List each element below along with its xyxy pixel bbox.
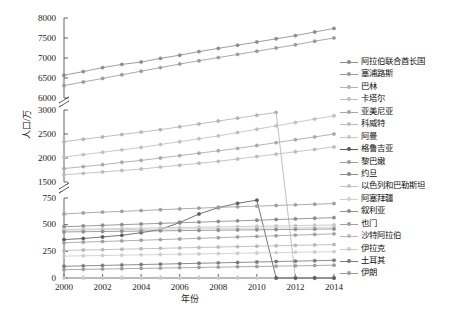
legend-label: 塞浦路斯 [361, 68, 393, 80]
legend-label: 卡塔尔 [361, 93, 385, 105]
legend-marker-icon [340, 168, 358, 180]
x-tick-label: 2006 [160, 283, 200, 292]
legend-item[interactable]: 卡塔尔 [340, 93, 425, 105]
legend-marker-icon [340, 156, 358, 168]
legend-item[interactable]: 阿拉伯联合酋长国 [340, 56, 425, 68]
legend-item[interactable]: 约旦 [340, 168, 425, 180]
legend-marker-icon [340, 68, 358, 80]
legend-label: 阿塞拜疆 [361, 193, 393, 205]
y-tick-label: 8000 [12, 14, 56, 23]
legend-label: 格鲁吉亚 [361, 143, 393, 155]
y-tick-label: 2500 [12, 130, 56, 139]
legend-marker-icon [340, 93, 358, 105]
legend-item[interactable]: 伊朗 [340, 267, 425, 279]
legend-label: 土耳其 [361, 255, 385, 267]
legend-marker-icon [340, 218, 358, 230]
legend-item[interactable]: 阿塞拜疆 [340, 193, 425, 205]
y-tick-label: 0 [12, 274, 56, 283]
legend-item[interactable]: 黎巴嫩 [340, 156, 425, 168]
legend-label: 亚美尼亚 [361, 106, 393, 118]
legend-item[interactable]: 亚美尼亚 [340, 106, 425, 118]
legend-item[interactable]: 巴林 [340, 81, 425, 93]
legend-label: 科威特 [361, 118, 385, 130]
y-tick-label: 500 [12, 220, 56, 229]
series-5 [62, 145, 335, 176]
legend-label: 叙利亚 [361, 205, 385, 217]
legend-item[interactable]: 塞浦路斯 [340, 68, 425, 80]
x-tick-label: 2010 [237, 283, 277, 292]
legend-item[interactable]: 科威特 [340, 118, 425, 130]
y-tick-label: 2000 [12, 154, 56, 163]
y-tick-label: 3000 [12, 106, 56, 115]
y-tick-label: 6500 [12, 74, 56, 83]
legend-marker-icon [340, 255, 358, 267]
y-tick-label: 7000 [12, 54, 56, 63]
legend-marker-icon [340, 106, 358, 118]
legend-label: 也门 [361, 218, 377, 230]
legend-label: 沙特阿拉伯 [361, 230, 401, 242]
x-tick-label: 2014 [314, 283, 354, 292]
chart-figure: 人口/万 年份 80007500700065006000300025002000… [0, 0, 475, 317]
legend-item[interactable]: 格鲁吉亚 [340, 143, 425, 155]
legend-item[interactable]: 土耳其 [340, 255, 425, 267]
legend-marker-icon [340, 81, 358, 93]
legend-marker-icon [340, 118, 358, 130]
y-tick-label: 6000 [12, 94, 56, 103]
legend-marker-icon [340, 180, 358, 192]
legend-marker-icon [340, 230, 358, 242]
x-tick-label: 2004 [121, 283, 161, 292]
legend-label: 以色列和巴勒斯坦 [361, 180, 425, 192]
x-tick-label: 2000 [44, 283, 84, 292]
legend-label: 约旦 [361, 168, 377, 180]
x-tick-label: 2008 [198, 283, 238, 292]
series-1 [62, 36, 335, 87]
legend-item[interactable]: 伊拉克 [340, 243, 425, 255]
legend-label: 黎巴嫩 [361, 156, 385, 168]
legend-marker-icon [340, 56, 358, 68]
x-tick-label: 2002 [83, 283, 123, 292]
y-tick-label: 250 [12, 247, 56, 256]
legend-label: 伊拉克 [361, 243, 385, 255]
legend-item[interactable]: 叙利亚 [340, 205, 425, 217]
legend-label: 巴林 [361, 81, 377, 93]
legend-label: 伊朗 [361, 267, 377, 279]
legend-label: 阿拉伯联合酋长国 [361, 56, 425, 68]
legend-item[interactable]: 也门 [340, 218, 425, 230]
x-tick-label: 2012 [275, 283, 315, 292]
legend-marker-icon [340, 205, 358, 217]
legend-item[interactable]: 沙特阿拉伯 [340, 230, 425, 242]
y-tick-label: 750 [12, 194, 56, 203]
series-0 [62, 27, 335, 77]
legend-item[interactable]: 以色列和巴勒斯坦 [340, 180, 425, 192]
legend-item[interactable]: 阿曼 [340, 131, 425, 143]
chart-legend: 阿拉伯联合酋长国塞浦路斯巴林卡塔尔亚美尼亚科威特阿曼格鲁吉亚黎巴嫩约旦以色列和巴… [340, 56, 425, 280]
y-tick-label: 7500 [12, 34, 56, 43]
legend-marker-icon [340, 131, 358, 143]
legend-marker-icon [340, 143, 358, 155]
legend-marker-icon [340, 267, 358, 279]
y-tick-label: 1500 [12, 178, 56, 187]
legend-marker-icon [340, 243, 358, 255]
legend-label: 阿曼 [361, 131, 377, 143]
legend-marker-icon [340, 193, 358, 205]
